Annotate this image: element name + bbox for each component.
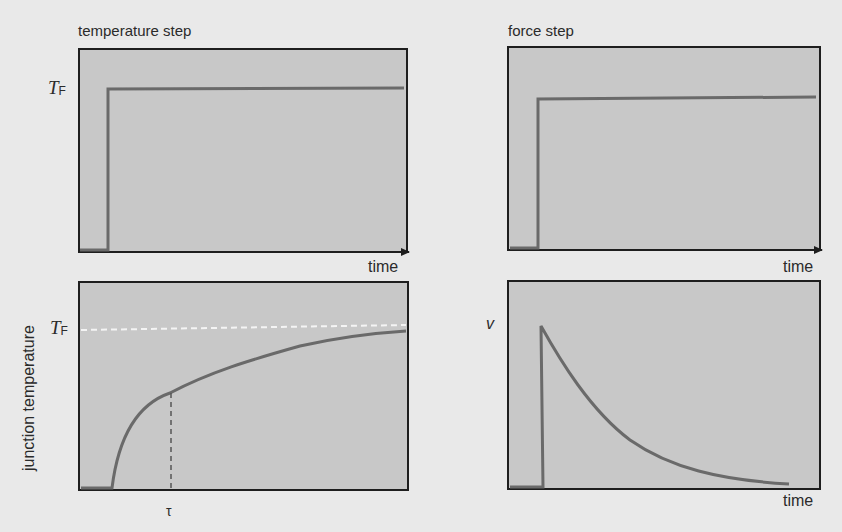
panel-temperature-step bbox=[79, 49, 409, 252]
tf-subscript: F bbox=[61, 324, 68, 338]
force-step-title: force step bbox=[508, 22, 574, 39]
plot-area bbox=[508, 47, 820, 250]
plot-area bbox=[79, 282, 408, 490]
figure-canvas bbox=[0, 0, 842, 532]
voltage-peak-label: v bbox=[486, 315, 494, 333]
panel-junction-temperature bbox=[79, 282, 408, 490]
tf-symbol: T bbox=[48, 77, 59, 98]
temperature-step-x-label: time bbox=[368, 258, 398, 276]
temperature-step-tf-label: TF bbox=[48, 77, 66, 99]
tf-symbol: T bbox=[50, 317, 61, 338]
tau-label: τ bbox=[166, 503, 172, 519]
junction-temperature-y-label: junction temperature bbox=[20, 325, 38, 471]
panel-voltage-response bbox=[508, 281, 820, 489]
voltage-response-x-label: time bbox=[783, 492, 813, 510]
panel-force-step bbox=[508, 47, 822, 250]
force-step-x-label: time bbox=[783, 258, 813, 276]
temperature-step-title: temperature step bbox=[78, 22, 191, 39]
junction-temperature-tf-label: TF bbox=[50, 317, 68, 339]
plot-area bbox=[79, 49, 407, 252]
tf-subscript: F bbox=[59, 84, 66, 98]
